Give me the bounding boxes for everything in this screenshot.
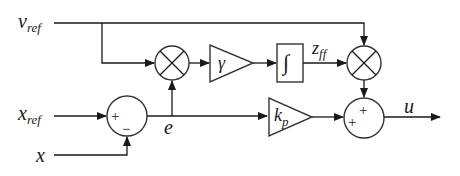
gain-kp-block: kp	[269, 98, 312, 136]
multiplier-2	[347, 46, 381, 80]
minus-sign: −	[122, 121, 130, 137]
multiplier-1	[155, 46, 189, 80]
sum-junction-error: + −	[107, 96, 147, 137]
plus-sign-left: +	[348, 114, 356, 130]
sum-junction-output: + +	[344, 98, 384, 138]
plus-sign: +	[111, 108, 119, 124]
signal-label-v-ref: vref	[18, 10, 43, 35]
control-block-diagram: vref xref x e zff u γ	[0, 0, 460, 176]
signal-label-x: x	[35, 144, 45, 166]
plus-sign-top: +	[359, 102, 367, 118]
signal-label-z-ff: zff	[311, 38, 329, 61]
wire-v-ref-branch	[102, 23, 154, 63]
integrator-block: ∫	[277, 44, 303, 82]
gain-gamma-block: γ	[210, 45, 253, 82]
signal-label-u: u	[404, 95, 414, 117]
wire-x	[54, 137, 127, 155]
gain-gamma-label: γ	[218, 53, 226, 73]
signal-label-e: e	[164, 116, 173, 138]
signal-label-x-ref: xref	[17, 102, 43, 127]
